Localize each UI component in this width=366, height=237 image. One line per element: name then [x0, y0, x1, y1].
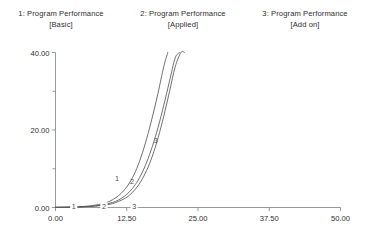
x-axis-tick-label: 37.50	[260, 214, 279, 223]
legend-item-3-title: 3: Program Performance	[244, 8, 366, 19]
x-axis-tick-label: 12.50	[117, 214, 136, 223]
legend-item-3-subtitle: [Add on]	[244, 19, 366, 30]
curve-labels: 123	[115, 136, 158, 186]
data-curves	[56, 51, 185, 207]
series-curve-label: 2	[130, 177, 134, 186]
y-axis-tick-label: 40.00	[30, 49, 49, 58]
chart-legend: 1: Program Performance [Basic] 2: Progra…	[0, 8, 366, 38]
x-axis-tick-label: 0.00	[48, 214, 63, 223]
inline-marker-label: 1	[72, 202, 76, 211]
x-axis: 0.0012.5025.0037.5050.00	[48, 208, 350, 223]
legend-item-2-subtitle: [Applied]	[122, 19, 244, 30]
legend-item-2: 2: Program Performance [Applied]	[122, 8, 244, 30]
series-curve	[56, 53, 180, 208]
y-axis-tick-label: 0.00	[35, 204, 50, 213]
inline-marker-label: 2	[102, 202, 106, 211]
y-axis-tick-label: 20.00	[30, 126, 49, 135]
series-curve-label: 3	[154, 136, 158, 145]
legend-item-1-subtitle: [Basic]	[0, 19, 122, 30]
series-curve	[56, 53, 168, 208]
series-curve-label: 1	[115, 174, 119, 183]
x-axis-tick-label: 50.00	[331, 214, 350, 223]
legend-item-1-title: 1: Program Performance	[0, 8, 122, 19]
legend-item-2-title: 2: Program Performance	[122, 8, 244, 19]
x-axis-tick-label: 25.00	[188, 214, 207, 223]
inline-marker-label: 3	[132, 202, 136, 211]
legend-item-1: 1: Program Performance [Basic]	[0, 8, 122, 30]
legend-item-3: 3: Program Performance [Add on]	[244, 8, 366, 30]
series-curve	[56, 51, 185, 207]
y-axis: 0.0020.0040.00	[30, 49, 55, 213]
program-performance-chart: 1: Program Performance [Basic] 2: Progra…	[0, 0, 366, 237]
